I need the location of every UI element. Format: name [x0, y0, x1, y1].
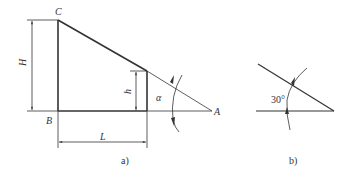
caption-a: a) — [121, 155, 129, 167]
label-h: h — [122, 89, 133, 94]
label-C: C — [55, 6, 62, 17]
figure-a: C B A H h L α a) — [17, 6, 221, 167]
figure-b: 30° b) — [256, 64, 334, 167]
diagram-canvas: C B A H h L α a) 30° b) — [0, 0, 354, 182]
angle-30-arc — [287, 68, 307, 130]
hypotenuse-extension — [147, 71, 212, 111]
label-A: A — [213, 106, 221, 117]
caption-b: b) — [289, 155, 297, 167]
label-L: L — [99, 131, 106, 142]
slanted-line — [258, 64, 334, 111]
label-B: B — [46, 115, 52, 126]
arc-arrow-top-icon — [170, 75, 174, 84]
label-H: H — [17, 58, 28, 67]
label-30-degrees: 30° — [271, 94, 285, 105]
hypotenuse-thick — [58, 20, 147, 71]
label-alpha: α — [156, 92, 162, 103]
